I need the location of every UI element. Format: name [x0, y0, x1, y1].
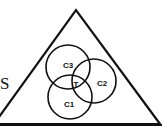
circle-c1 [48, 75, 92, 119]
circle-c1-label: C1 [64, 100, 75, 109]
triangle-region-s [0, 10, 160, 124]
set-s-label: S [0, 74, 9, 93]
intersection-t-label: T [74, 80, 79, 89]
circle-c3-label: C3 [63, 61, 74, 70]
circle-c2 [72, 59, 116, 103]
circle-c2-label: C2 [97, 79, 108, 88]
venn-triangle-diagram: S C3 C2 C1 T [0, 0, 167, 131]
